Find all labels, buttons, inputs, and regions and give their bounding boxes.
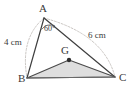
vertex-label-c: C [119,72,126,83]
vertex-label-b: B [18,73,25,84]
inner-triangle-bgc [27,60,115,78]
vertex-label-g: G [61,45,69,56]
vertex-label-a: A [39,3,47,14]
point-g-marker [67,58,71,62]
geometry-figure: A B C G 4 cm 6 cm 60° [0,0,140,95]
angle-measure-label-a: 60° [44,25,55,33]
side-length-label-ab: 4 cm [4,38,22,47]
side-length-label-ac: 6 cm [88,31,106,40]
